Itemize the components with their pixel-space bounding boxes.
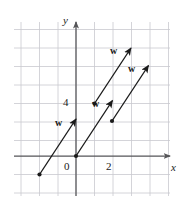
vector-label-w-1: w [55, 118, 62, 128]
x-tick-label-0: 0 [64, 161, 70, 172]
vector-label-w-3: w [110, 46, 117, 56]
vector-3 [92, 48, 131, 106]
vector-tail-point-4 [110, 119, 114, 123]
vector-diagram-figure: y x 0 2 4 w w w w [0, 0, 190, 214]
x-tick-label-2: 2 [106, 161, 112, 172]
vector-4 [110, 66, 149, 124]
y-tick-label-4: 4 [63, 97, 69, 108]
vector-label-w-2: w [92, 99, 99, 109]
vector-2 [74, 101, 113, 159]
vector-tail-point-1 [37, 172, 41, 176]
vector-tail-point-2 [74, 154, 78, 158]
grid-horizontal-lines [14, 30, 170, 194]
x-axis-label: x [171, 162, 176, 173]
vector-label-w-4: w [128, 64, 135, 74]
y-axis-label: y [63, 15, 68, 26]
